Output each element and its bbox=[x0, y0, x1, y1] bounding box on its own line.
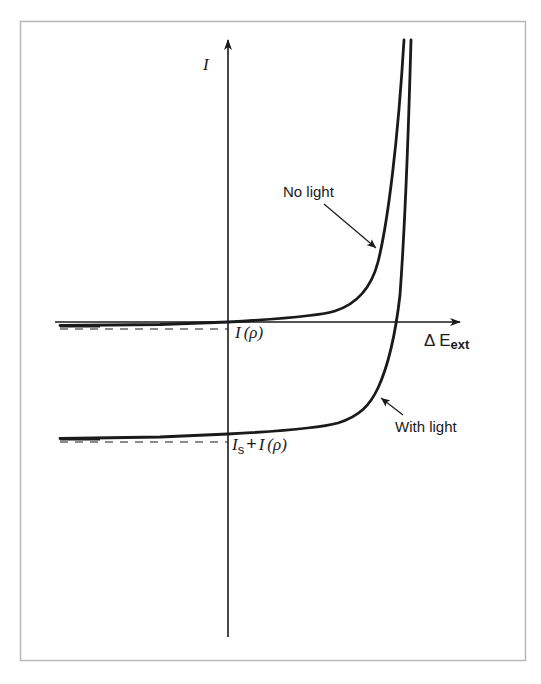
dark-current-label-I: I bbox=[234, 323, 242, 342]
photo-current-label-I2: I bbox=[258, 435, 266, 454]
with-light-annotation-arrow bbox=[381, 398, 403, 415]
dark-current-label-rho: (ρ) bbox=[244, 323, 264, 342]
no-light-annotation-arrow bbox=[324, 204, 376, 248]
x-axis-label-sub: ext bbox=[450, 337, 469, 352]
no-light-curve bbox=[60, 40, 404, 326]
photo-current-label: Is+I(ρ) bbox=[231, 434, 287, 457]
photo-current-label-rho: (ρ) bbox=[267, 435, 287, 454]
photo-current-label-plus: + bbox=[246, 434, 257, 454]
with-light-annotation: With light bbox=[395, 418, 458, 435]
diagram-canvas: I Δ Eext I(ρ) Is+I(ρ) No light With ligh… bbox=[0, 0, 541, 684]
dark-current-label: I(ρ) bbox=[234, 323, 263, 342]
y-axis-label: I bbox=[202, 55, 210, 74]
photo-current-label-sub: s bbox=[238, 442, 245, 457]
x-axis-label: Δ Eext bbox=[424, 331, 470, 352]
with-light-curve bbox=[60, 40, 411, 439]
x-axis-label-main: Δ E bbox=[424, 331, 450, 350]
no-light-annotation: No light bbox=[283, 183, 335, 200]
